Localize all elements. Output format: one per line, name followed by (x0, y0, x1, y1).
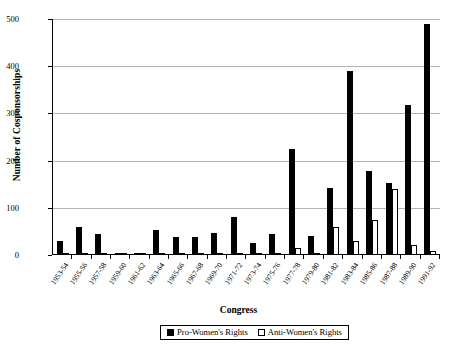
bar-group (92, 19, 111, 255)
bar-group (363, 19, 382, 255)
bar-chart: Number of Cosponsorships 500400300200100… (0, 0, 463, 354)
legend-item: Anti-Women's Rights (258, 328, 342, 337)
bar-group (227, 19, 246, 255)
bar-group (401, 19, 420, 255)
y-axis-tick-mark (48, 161, 52, 162)
legend-label: Anti-Women's Rights (268, 328, 342, 337)
y-axis-tick-label: 200 (0, 157, 19, 166)
bar-group (208, 19, 227, 255)
bar-group (285, 19, 304, 255)
bar-group (150, 19, 169, 255)
bar-group (169, 19, 188, 255)
bar-anti (411, 245, 417, 255)
bar-series-container (53, 19, 440, 255)
bar-group (72, 19, 91, 255)
bar-group (324, 19, 343, 255)
x-axis-title: Congress (0, 305, 463, 315)
bar-group (246, 19, 265, 255)
x-axis-tick-label: 1953-54 (49, 261, 70, 286)
y-axis-tick-mark (48, 255, 52, 256)
bar-group (53, 19, 72, 255)
bar-anti (372, 220, 378, 255)
y-axis-tick-mark (48, 208, 52, 209)
bar-anti (295, 248, 301, 255)
bar-pro (153, 230, 159, 255)
bar-pro (95, 234, 101, 255)
bar-pro (424, 24, 430, 255)
legend-item: Pro-Women's Rights (167, 328, 248, 337)
bar-anti (353, 241, 359, 255)
bar-group (304, 19, 323, 255)
bar-group (343, 19, 362, 255)
y-axis-tick-label: 100 (0, 204, 19, 213)
bar-group (130, 19, 149, 255)
y-axis-tick-label: 0 (0, 251, 19, 260)
y-axis-tick-label: 500 (0, 15, 19, 24)
y-axis-tick-mark (48, 113, 52, 114)
bar-pro (76, 227, 82, 255)
y-axis-tick-mark (48, 66, 52, 67)
bar-group (111, 19, 130, 255)
bar-pro (347, 71, 353, 255)
bar-group (382, 19, 401, 255)
x-axis-tick-labels: 1953-541955-561957-581959-601961-621963-… (53, 259, 440, 305)
y-axis-tick-label: 300 (0, 109, 19, 118)
bar-group (266, 19, 285, 255)
bar-pro (211, 233, 217, 255)
bar-group (421, 19, 440, 255)
bar-pro (269, 234, 275, 255)
x-label-cell: 1991-92 (421, 259, 440, 305)
bar-pro (405, 105, 411, 255)
y-axis-tick-mark (48, 19, 52, 20)
bar-group (188, 19, 207, 255)
legend-swatch-anti-icon (258, 329, 265, 336)
legend-swatch-pro-icon (167, 329, 174, 336)
bar-pro (289, 149, 295, 255)
bar-anti (392, 189, 398, 255)
legend-label: Pro-Women's Rights (177, 328, 248, 337)
chart-legend: Pro-Women's RightsAnti-Women's Rights (160, 325, 349, 340)
y-axis-tick-label: 400 (0, 62, 19, 71)
bar-pro (231, 217, 237, 255)
bar-anti (333, 227, 339, 255)
